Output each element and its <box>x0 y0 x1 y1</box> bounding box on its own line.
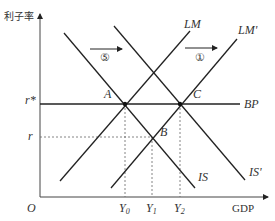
lm-label: LM <box>183 17 202 31</box>
is-lm-bp-diagram: 利子率 GDP O r* r Y0 Y1 Y2 LM LM' IS IS' BP… <box>0 0 275 221</box>
shift-5-label: ⑤ <box>100 51 110 63</box>
bp-label: BP <box>244 97 259 111</box>
lm-prime-label: LM' <box>237 23 258 37</box>
x-axis-label: GDP <box>232 202 254 214</box>
point-a-marker <box>123 102 127 106</box>
is-curve <box>64 33 195 188</box>
y2-label: Y2 <box>174 201 185 216</box>
point-c-label: C <box>193 87 202 101</box>
lm-prime-curve <box>111 39 237 188</box>
is-prime-label: IS' <box>248 165 262 179</box>
point-c-marker <box>178 102 182 106</box>
r-star-label: r* <box>25 93 36 107</box>
shift-1-label: ① <box>195 51 205 63</box>
y1-label: Y1 <box>146 201 157 216</box>
point-b-label: B <box>160 125 168 139</box>
is-label: IS <box>197 170 208 184</box>
y-axis-label: 利子率 <box>4 10 34 22</box>
r-label: r <box>28 129 33 143</box>
point-a-label: A <box>103 87 112 101</box>
origin-label: O <box>27 201 36 215</box>
y0-label: Y0 <box>119 201 130 216</box>
